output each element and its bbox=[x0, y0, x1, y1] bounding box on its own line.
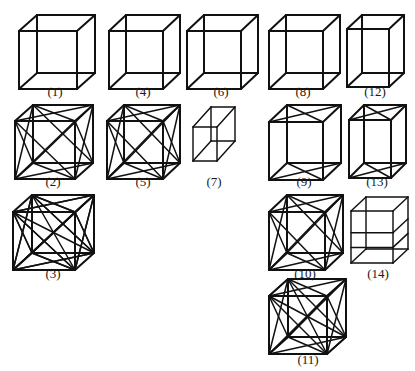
cube-figure-4: (4) bbox=[106, 12, 180, 104]
cube-figure-13: (13) bbox=[346, 102, 408, 194]
cube-figure-label-8: (8) bbox=[266, 85, 340, 99]
cube-wireframe-13 bbox=[346, 102, 408, 174]
cube-wireframe-10 bbox=[266, 192, 344, 266]
cube-wireframe-4 bbox=[106, 12, 180, 84]
cube-figure-label-14: (14) bbox=[348, 267, 408, 281]
cube-wireframe-7 bbox=[190, 104, 238, 174]
cube-figure-label-12: (12) bbox=[344, 85, 406, 99]
cube-figure-label-6: (6) bbox=[184, 85, 258, 99]
cube-figure-6: (6) bbox=[184, 12, 258, 104]
cube-figure-label-11: (11) bbox=[266, 353, 350, 367]
cube-figure-label-7: (7) bbox=[190, 175, 238, 189]
cube-figure-label-1: (1) bbox=[16, 85, 94, 99]
cube-wireframe-12 bbox=[344, 12, 406, 84]
cube-wireframe-3 bbox=[10, 192, 96, 266]
cube-figure-7: (7) bbox=[190, 104, 238, 194]
cube-figure-1: (1) bbox=[16, 12, 94, 104]
cube-figure-12: (12) bbox=[344, 12, 406, 104]
cube-wireframe-11 bbox=[266, 276, 350, 352]
cube-figure-8: (8) bbox=[266, 12, 340, 104]
cube-figure-label-2: (2) bbox=[12, 175, 94, 189]
cube-wireframe-2 bbox=[12, 102, 94, 174]
cube-wireframe-14 bbox=[348, 194, 408, 266]
cube-figure-10: (10) bbox=[266, 192, 344, 286]
cube-figure-14: (14) bbox=[348, 194, 408, 286]
cube-figure-9: (9) bbox=[266, 102, 342, 194]
cube-figure-11: (11) bbox=[266, 276, 350, 371]
cube-wireframe-6 bbox=[184, 12, 258, 84]
cube-figure-5: (5) bbox=[104, 102, 182, 194]
cube-figure-3: (3) bbox=[10, 192, 96, 286]
cube-wireframe-5 bbox=[104, 102, 182, 174]
cube-figure-label-4: (4) bbox=[106, 85, 180, 99]
cube-figure-label-5: (5) bbox=[104, 175, 182, 189]
cube-wireframe-9 bbox=[266, 102, 342, 174]
cube-figure-label-13: (13) bbox=[346, 175, 408, 189]
cube-wireframe-8 bbox=[266, 12, 340, 84]
cube-figure-label-3: (3) bbox=[10, 267, 96, 281]
cube-wireframe-1 bbox=[16, 12, 94, 84]
cube-figure-label-9: (9) bbox=[266, 175, 342, 189]
cube-figure-2: (2) bbox=[12, 102, 94, 194]
